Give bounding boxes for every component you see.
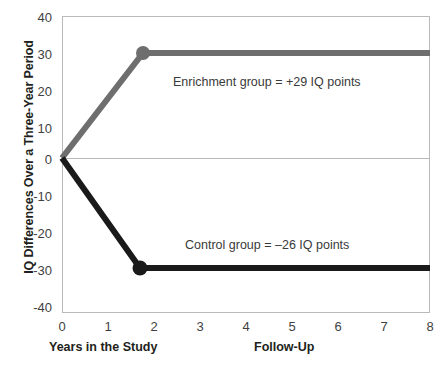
chart-canvas: IQ Differences Over a Three-Year Period … — [0, 0, 437, 371]
annotation-control: Control group = –26 IQ points — [185, 238, 349, 252]
series-marker-control — [133, 261, 148, 276]
series-layer — [0, 0, 437, 371]
series-marker-enrichment — [136, 46, 150, 60]
series-line-enrichment — [62, 53, 430, 158]
annotation-enrichment: Enrichment group = +29 IQ points — [173, 75, 361, 89]
